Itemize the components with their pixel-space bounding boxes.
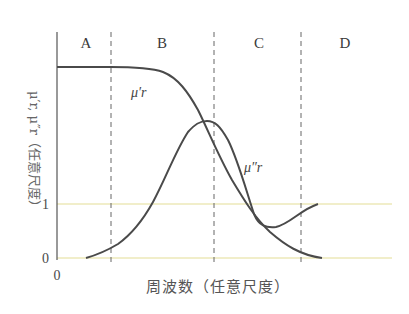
mu-prime-curve — [57, 67, 322, 258]
region-label-b: B — [157, 35, 167, 51]
region-label-a: A — [81, 35, 92, 51]
region-label-d: D — [340, 35, 351, 51]
y-tick-0: 0 — [42, 251, 49, 266]
mu-double-prime-label: μ″r — [243, 160, 263, 175]
y-axis-label: μ′r, μ″r（任意尺度） — [27, 91, 42, 213]
mu-prime-label: μ′r — [130, 85, 147, 100]
mu-double-prime-curve — [86, 121, 318, 258]
x-origin-label: 0 — [54, 268, 61, 283]
chart-canvas: A B C D μ′r μ″r 1 0 0 周波数（任意尺度） μ′r, μ″r… — [0, 0, 409, 314]
region-label-c: C — [254, 35, 264, 51]
x-axis-label: 周波数（任意尺度） — [146, 278, 290, 296]
y-tick-1: 1 — [42, 197, 49, 212]
